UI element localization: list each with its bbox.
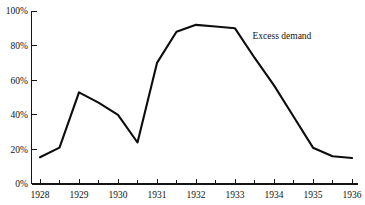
- x-axis-ticks: [40, 179, 352, 184]
- x-tick-label-1931: 1931: [148, 190, 167, 200]
- x-axis-tick-labels: 192819291930193119321933193419351936: [31, 190, 362, 200]
- y-tick-label-40: 40%: [11, 110, 29, 120]
- x-tick-label-1935: 1935: [304, 190, 323, 200]
- y-tick-label-100: 100%: [6, 6, 28, 16]
- x-tick-label-1929: 1929: [70, 190, 89, 200]
- y-tick-label-60: 60%: [11, 76, 29, 86]
- data-series-group: [40, 25, 352, 158]
- x-tick-label-1933: 1933: [226, 190, 245, 200]
- y-tick-label-80: 80%: [11, 41, 29, 51]
- x-tick-label-1934: 1934: [265, 190, 284, 200]
- x-tick-label-1928: 1928: [31, 190, 50, 200]
- x-tick-label-1936: 1936: [343, 190, 362, 200]
- excess-demand-chart: 0%20%40%60%80%100% 192819291930193119321…: [0, 0, 365, 205]
- y-tick-label-20: 20%: [11, 145, 29, 155]
- x-tick-label-1930: 1930: [109, 190, 128, 200]
- series-annotation-group: Excess demand: [253, 31, 312, 41]
- series-line-0: [40, 25, 352, 158]
- series-annotation-label: Excess demand: [253, 31, 312, 41]
- x-tick-label-1932: 1932: [187, 190, 206, 200]
- y-tick-label-0: 0%: [15, 179, 28, 189]
- chart-canvas: 0%20%40%60%80%100% 192819291930193119321…: [0, 0, 365, 205]
- y-axis-tick-labels: 0%20%40%60%80%100%: [6, 6, 28, 189]
- y-axis-ticks: [32, 11, 37, 184]
